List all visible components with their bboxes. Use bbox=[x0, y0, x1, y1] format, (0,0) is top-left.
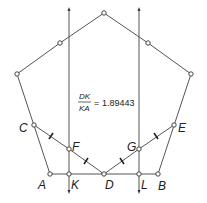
label-G: G bbox=[127, 140, 136, 154]
ratio-measurement[interactable]: DK KA = 1.89443 bbox=[78, 92, 135, 113]
label-A: A bbox=[37, 178, 46, 192]
point-K[interactable] bbox=[67, 172, 71, 176]
geometry-diagram: C E F G A K D L B DK KA = 1.89443 bbox=[0, 0, 207, 203]
point-A[interactable] bbox=[48, 172, 52, 176]
point-upper-left-mid[interactable] bbox=[58, 41, 62, 45]
point-C[interactable] bbox=[32, 123, 36, 127]
label-L: L bbox=[141, 178, 148, 192]
perpendicular-line-left bbox=[68, 7, 71, 194]
point-left[interactable] bbox=[15, 72, 19, 76]
point-L[interactable] bbox=[137, 172, 141, 176]
label-E: E bbox=[178, 121, 187, 135]
label-D: D bbox=[105, 178, 114, 192]
point-upper-right-mid[interactable] bbox=[146, 41, 150, 45]
segment-CDE bbox=[34, 125, 174, 174]
points bbox=[15, 11, 193, 176]
point-right[interactable] bbox=[189, 72, 193, 76]
label-K: K bbox=[71, 178, 80, 192]
label-F: F bbox=[72, 140, 80, 154]
ratio-value: 1.89443 bbox=[102, 98, 135, 108]
point-G[interactable] bbox=[137, 147, 141, 151]
ratio-equals: = bbox=[94, 98, 99, 108]
point-B[interactable] bbox=[156, 172, 160, 176]
point-D[interactable] bbox=[102, 172, 106, 176]
label-B: B bbox=[158, 179, 166, 193]
ratio-numerator: DK bbox=[79, 92, 91, 101]
point-F[interactable] bbox=[67, 147, 71, 151]
arrow-up-icon bbox=[68, 7, 71, 11]
arrow-up-icon bbox=[138, 7, 141, 11]
point-top[interactable] bbox=[102, 11, 106, 15]
label-C: C bbox=[19, 121, 28, 135]
ratio-denominator: KA bbox=[79, 104, 90, 113]
pentagon-outline bbox=[17, 13, 191, 174]
point-E[interactable] bbox=[172, 123, 176, 127]
perpendicular-line-right bbox=[138, 7, 141, 194]
